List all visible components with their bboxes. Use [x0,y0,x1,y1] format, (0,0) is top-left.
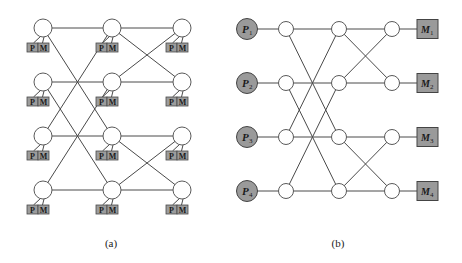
switch-node [103,73,121,91]
pm-unit: PM [96,198,118,215]
pm-label-m: M [179,152,187,161]
pm-label-p: P [99,206,104,215]
memory-index: 4 [430,191,434,199]
pm-unit: PM [166,90,188,107]
memory-index: 3 [430,137,434,145]
figure-b-links [247,29,417,191]
pm-label-m: M [40,152,48,161]
switch-node [103,181,121,199]
pm-unit: PM [166,36,188,53]
processor-label: P [242,131,249,143]
switch-node [332,22,347,37]
pm-label-m: M [109,206,117,215]
pm-unit: PM [96,90,118,107]
pm-label-p: P [169,152,174,161]
pm-label-p: P [30,152,35,161]
caption-b: (b) [332,237,345,250]
pm-label-m: M [179,206,187,215]
pm-label-p: P [169,98,174,107]
pm-label-p: P [169,206,174,215]
switch-node [34,19,52,37]
memory-module: M1 [417,20,438,39]
processor-label: P [242,185,249,197]
processor-node: P3 [237,127,258,148]
pm-unit: PM [27,144,49,161]
switch-node [34,73,52,91]
switch-node [173,181,191,199]
memory-module: M4 [417,182,438,201]
switch-node [279,130,294,145]
processor-index: 2 [249,83,253,91]
pm-unit: PM [166,198,188,215]
processor-index: 1 [249,29,253,37]
interconnection-network-figure: PMPMPMPMPMPMPMPMPMPMPMPM (a) P1M1P2M2P3M… [0,0,462,263]
caption-a: (a) [105,237,118,250]
pm-link-m [112,199,114,205]
pm-label-m: M [40,44,48,53]
processor-label: P [242,77,249,89]
pm-label-m: M [109,98,117,107]
pm-link-p [103,198,111,205]
switch-node [34,181,52,199]
pm-link-m [182,145,184,151]
switch-node [103,127,121,145]
pm-link-p [34,90,42,97]
pm-link-p [173,36,181,43]
switch-node [385,76,400,91]
pm-link-m [112,145,114,151]
switch-node [385,22,400,37]
switch-node [279,184,294,199]
memory-index: 2 [430,83,434,91]
switch-node [385,130,400,145]
pm-label-p: P [99,152,104,161]
switch-node [385,184,400,199]
pm-label-m: M [109,152,117,161]
pm-link-m [43,91,45,97]
memory-module: M2 [417,74,438,93]
switch-node [173,19,191,37]
pm-label-p: P [30,206,35,215]
figure-b-processor-memory-network: P1M1P2M2P3M3P4M4 (b) [237,19,439,251]
pm-label-m: M [40,206,48,215]
processor-node: P2 [237,73,258,94]
memory-index: 1 [430,29,434,37]
pm-link-p [173,144,181,151]
switch-node [332,76,347,91]
pm-label-p: P [30,44,35,53]
pm-label-m: M [179,44,187,53]
processor-node: P4 [237,181,258,202]
pm-link-m [182,91,184,97]
switch-node [173,73,191,91]
switch-node [173,127,191,145]
pm-unit: PM [96,144,118,161]
pm-label-p: P [99,98,104,107]
pm-unit: PM [27,198,49,215]
switch-node [279,76,294,91]
pm-unit: PM [27,36,49,53]
processor-label: P [242,23,249,35]
pm-unit: PM [27,90,49,107]
pm-label-m: M [40,98,48,107]
pm-label-p: P [169,44,174,53]
switch-node [34,127,52,145]
switch-node [103,19,121,37]
pm-link-p [173,198,181,205]
pm-link-m [43,145,45,151]
pm-unit: PM [96,36,118,53]
processor-index: 3 [249,137,253,145]
figure-b-nodes: P1M1P2M2P3M3P4M4 [237,19,439,202]
pm-link-m [112,37,114,43]
pm-label-p: P [30,98,35,107]
pm-link-p [103,144,111,151]
pm-label-m: M [179,98,187,107]
pm-link-p [34,36,42,43]
pm-link-m [182,37,184,43]
pm-unit: PM [166,144,188,161]
pm-link-m [112,91,114,97]
pm-link-p [34,144,42,151]
pm-label-m: M [109,44,117,53]
switch-node [279,22,294,37]
processor-index: 4 [249,191,253,199]
figure-a-distributed-memory-network: PMPMPMPMPMPMPMPMPMPMPMPM (a) [27,19,191,250]
pm-link-m [43,37,45,43]
